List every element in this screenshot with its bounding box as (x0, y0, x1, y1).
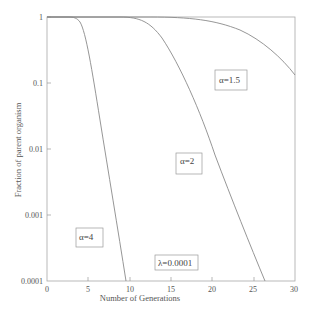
curve-alpha-1-5 (47, 17, 295, 75)
y-axis-title: Fraction of parent organism (13, 102, 23, 197)
annotation-alpha-4: α=4 (76, 228, 103, 247)
annotation-lambda: λ=0.0001 (155, 255, 198, 270)
svg-text:α=4: α=4 (79, 232, 94, 242)
y-tick-label: 1 (39, 13, 43, 22)
x-tick-label: 30 (290, 285, 298, 294)
annotation-alpha-1-5: α=1.5 (215, 70, 247, 90)
x-tick-label: 25 (249, 285, 257, 294)
x-axis: 0 5 10 15 20 25 30 (45, 277, 298, 294)
svg-text:λ=0.0001: λ=0.0001 (158, 258, 192, 268)
x-axis-title: Number of Generations (100, 293, 180, 303)
svg-text:α=2: α=2 (180, 156, 194, 166)
y-tick-label: 0.01 (29, 145, 43, 154)
y-tick-label: 0.1 (33, 79, 43, 88)
y-tick-label: 0.001 (25, 211, 43, 220)
x-tick-label: 0 (45, 285, 49, 294)
y-tick-label: 0.0001 (21, 277, 43, 286)
annotation-alpha-2: α=2 (176, 153, 202, 174)
x-tick-label: 5 (86, 285, 90, 294)
chart-canvas: 1 0.1 0.01 0.001 0.0001 0 5 10 15 20 25 … (0, 0, 313, 313)
y-axis: 1 0.1 0.01 0.001 0.0001 (21, 13, 51, 286)
x-tick-label: 20 (208, 285, 216, 294)
svg-text:α=1.5: α=1.5 (219, 75, 241, 85)
